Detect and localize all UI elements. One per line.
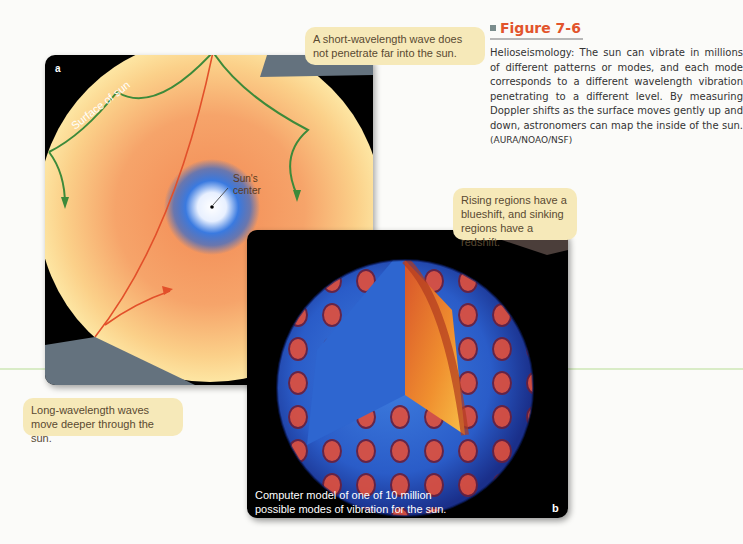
callout-short-wavelength: A short-wavelength wave does not penetra… [305, 27, 485, 65]
panel-b-caption-line2: possible modes of vibration for the sun. [255, 502, 446, 516]
center-label-1: Sun's [233, 173, 258, 184]
figure-caption-text: Helioseismology: The sun can vibrate in … [490, 46, 743, 148]
sun-mode-sphere [247, 230, 568, 518]
caption-body: Helioseismology: The sun can vibrate in … [490, 47, 743, 131]
caption-credit: (AURA/NOAO/NSF) [490, 135, 572, 145]
panel-a-label: a [55, 63, 61, 74]
callout-long-wavelength: Long-wavelength waves move deeper throug… [23, 398, 183, 436]
panel-b-caption-line1: Computer model of one of 10 million [255, 488, 446, 502]
figure-title: Figure 7-6 [490, 20, 583, 40]
callout-doppler-shift: Rising regions have a blueshift, and sin… [453, 188, 577, 240]
panel-b-vibration-model: Computer model of one of 10 million poss… [247, 230, 568, 518]
panel-b-label: b [552, 502, 559, 514]
figure-caption: Figure 7-6 Helioseismology: The sun can … [490, 20, 743, 148]
figure-number: Figure 7-6 [500, 20, 581, 36]
panel-b-caption: Computer model of one of 10 million poss… [255, 488, 446, 516]
center-label-2: center [233, 185, 261, 196]
bullet-square-icon [490, 25, 496, 31]
